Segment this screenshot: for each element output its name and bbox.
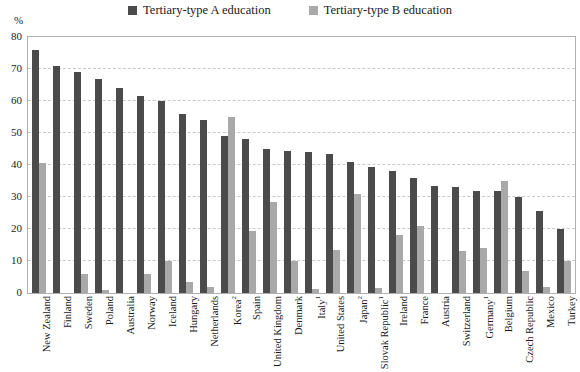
bar (389, 171, 396, 293)
x-axis-tick: Italy1 (300, 294, 321, 372)
bar (95, 79, 102, 293)
x-axis-tick: Hungary (174, 294, 195, 372)
bar-group (322, 37, 343, 293)
legend-item-label: Tertiary-type B education (324, 4, 452, 17)
bar (452, 187, 459, 293)
bar-group (407, 37, 428, 293)
bar (368, 167, 375, 293)
bar (158, 101, 165, 293)
bar (32, 50, 39, 293)
y-axis-tick-label: 60 (11, 95, 22, 106)
bar-group (280, 37, 301, 293)
x-axis-tick: Iceland (153, 294, 174, 372)
bar (410, 178, 417, 293)
bar (522, 271, 529, 293)
bar (543, 287, 550, 293)
bar (396, 235, 403, 293)
x-axis-tick: Sweden (69, 294, 90, 372)
bar (557, 229, 564, 293)
x-axis-tick: France (406, 294, 427, 372)
legend-item: Tertiary-type A education (128, 4, 271, 17)
x-axis-tick: Japan2 (342, 294, 363, 372)
bar (179, 114, 186, 293)
y-axis-tick-label: 80 (11, 31, 22, 42)
x-axis-tick: United States (321, 294, 342, 372)
x-axis-tick-label: Turkey (567, 296, 578, 326)
legend-item: Tertiary-type B education (309, 4, 452, 17)
x-axis-tick: Denmark (279, 294, 300, 372)
bar (312, 289, 319, 293)
bar (291, 261, 298, 293)
x-axis-tick-label-text: Turkey (566, 296, 577, 326)
x-axis-tick: Ireland (385, 294, 406, 372)
bar-group (28, 37, 49, 293)
square-marker-icon (309, 6, 318, 15)
bar-group (386, 37, 407, 293)
bar-group (554, 37, 575, 293)
chart-legend: Tertiary-type A educationTertiary-type B… (0, 0, 580, 20)
bar (137, 96, 144, 293)
legend-item-label: Tertiary-type A education (143, 4, 271, 17)
y-axis-tick-label: 50 (11, 127, 22, 138)
bar (228, 117, 235, 293)
bar (53, 66, 60, 293)
bar (564, 261, 571, 293)
bar (207, 287, 214, 293)
x-axis-tick: Poland (90, 294, 111, 372)
y-axis: 01020304050607080 (0, 36, 25, 292)
bar-group (449, 37, 470, 293)
square-marker-icon (128, 6, 137, 15)
bar-group (70, 37, 91, 293)
bar (494, 191, 501, 293)
x-axis-tick: Belgium (490, 294, 511, 372)
bar (39, 163, 46, 293)
bar (347, 162, 354, 293)
bar (536, 211, 543, 293)
bar (263, 149, 270, 293)
x-axis-tick: Slovak Republic1 (364, 294, 385, 372)
bar (515, 197, 522, 293)
x-axis-tick: Netherlands (195, 294, 216, 372)
y-axis-tick-label: 20 (11, 223, 22, 234)
x-axis-tick: Austria (427, 294, 448, 372)
x-axis-tick: Turkey (553, 294, 574, 372)
bar-group (238, 37, 259, 293)
bar (480, 248, 487, 293)
x-axis-tick: Australia (111, 294, 132, 372)
bar-group (154, 37, 175, 293)
bar-group (301, 37, 322, 293)
bar (417, 226, 424, 293)
bar-group (533, 37, 554, 293)
x-axis-tick: Korea2 (216, 294, 237, 372)
x-axis-tick: Spain (237, 294, 258, 372)
bar (375, 288, 382, 293)
bar-group (196, 37, 217, 293)
bar-group (343, 37, 364, 293)
bar (501, 181, 508, 293)
y-axis-tick-label: 70 (11, 63, 22, 74)
bar (333, 250, 340, 293)
x-axis-tick: Norway (132, 294, 153, 372)
bar-group (428, 37, 449, 293)
x-axis-tick: Germany1 (469, 294, 490, 372)
bar-group (470, 37, 491, 293)
y-axis-tick-label: 10 (11, 255, 22, 266)
bar-group (91, 37, 112, 293)
bars-layer (28, 37, 575, 293)
y-axis-tick-label: 40 (11, 159, 22, 170)
bar (242, 139, 249, 293)
bar (326, 154, 333, 293)
bar (284, 151, 291, 293)
x-axis: New ZealandFinlandSwedenPolandAustraliaN… (27, 294, 574, 372)
x-axis-tick: New Zealand (27, 294, 48, 372)
bar (165, 261, 172, 293)
bar (249, 231, 256, 293)
bar (431, 186, 438, 293)
bar-group (217, 37, 238, 293)
bar (81, 274, 88, 293)
bar (102, 290, 109, 293)
bar (354, 194, 361, 293)
x-axis-tick: United Kingdom (258, 294, 279, 372)
bar-group (133, 37, 154, 293)
bar (74, 72, 81, 293)
